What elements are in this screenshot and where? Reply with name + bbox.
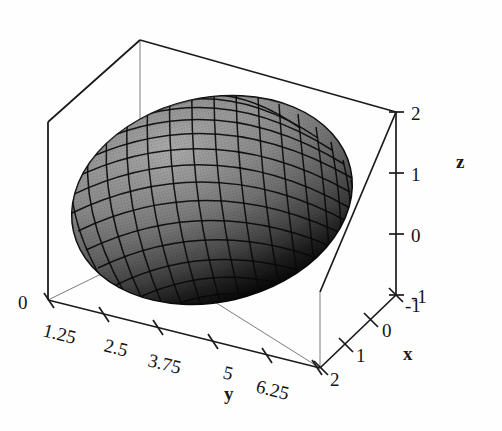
z-tick-label: 2	[411, 103, 421, 124]
y-tick-label: 2.5	[102, 335, 130, 361]
z-tick-label: 1	[411, 164, 421, 185]
x-axis-label: x	[403, 343, 413, 364]
y-tick-label: 3.75	[146, 350, 183, 378]
figure-canvas: 2 1 0 -1 -1 0 1 2 0 1.25 2.5 3.75 5 6.25…	[0, 0, 502, 431]
x-tick-label: 0	[382, 320, 392, 341]
y-tick-label: 0	[18, 292, 28, 313]
scan-artifact-bottom	[30, 398, 34, 415]
y-axis-label: y	[224, 383, 234, 404]
z-tick-labels: 2 1 0 -1	[411, 103, 427, 307]
z-tick-label: 0	[411, 225, 421, 246]
scan-artifact-top	[225, 44, 229, 61]
y-tick-label: 1.25	[41, 320, 78, 348]
surface-plot: 2 1 0 -1 -1 0 1 2 0 1.25 2.5 3.75 5 6.25…	[0, 0, 502, 431]
x-tick-label: -1	[405, 295, 421, 316]
y-tick-label: 6.25	[254, 376, 291, 404]
y-tick-label: 5	[221, 362, 235, 385]
y-tick-labels: 0 1.25 2.5 3.75 5 6.25	[18, 292, 291, 404]
x-tick-label: 2	[330, 369, 340, 390]
x-tick-label: 1	[356, 345, 366, 366]
z-axis-label: z	[456, 151, 465, 172]
